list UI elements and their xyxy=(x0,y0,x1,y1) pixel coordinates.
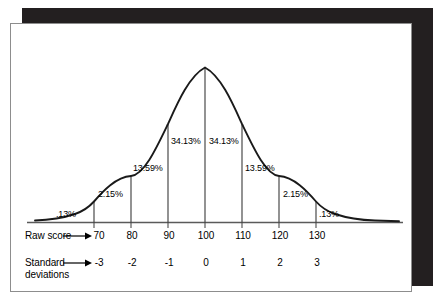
raw-tick-5: 120 xyxy=(272,231,288,241)
figure-card: .13% 2.15% 13.59% 34.13% 34.13% 13.59% 2… xyxy=(10,23,412,292)
sd-tick-5: 2 xyxy=(277,258,282,268)
axis-tick-marks xyxy=(94,223,316,229)
standard-deviations-arrow xyxy=(63,260,92,267)
sd-tick-1: -2 xyxy=(128,258,137,268)
raw-tick-0: 70 xyxy=(94,231,105,241)
area-label-right-outer: 2.15% xyxy=(283,190,308,199)
sd-tick-0: -3 xyxy=(95,258,104,268)
area-label-right-mid: 13.59% xyxy=(245,164,275,173)
raw-score-row-label: Raw score xyxy=(25,231,71,241)
sd-tick-3: 0 xyxy=(203,258,208,268)
figure-root: .13% 2.15% 13.59% 34.13% 34.13% 13.59% 2… xyxy=(0,0,433,302)
sd-tick-2: -1 xyxy=(165,258,174,268)
standard-deviations-row-label-line2: deviations xyxy=(25,270,69,280)
area-label-left-mid: 13.59% xyxy=(133,164,163,173)
raw-tick-2: 90 xyxy=(164,231,175,241)
raw-tick-4: 110 xyxy=(235,231,251,241)
area-label-far-left: .13% xyxy=(56,210,76,219)
sd-tick-6: 3 xyxy=(314,258,319,268)
sd-tick-4: 1 xyxy=(240,258,245,268)
area-label-right-inner: 34.13% xyxy=(209,137,239,146)
sd-division-lines xyxy=(94,68,316,223)
standard-deviations-row-label-line1: Standard xyxy=(25,258,65,268)
area-label-left-inner: 34.13% xyxy=(171,137,201,146)
raw-tick-6: 130 xyxy=(309,231,325,241)
raw-tick-1: 80 xyxy=(127,231,138,241)
area-label-far-right: .13% xyxy=(319,210,339,219)
normal-curve-plot xyxy=(11,24,413,293)
area-label-left-outer: 2.15% xyxy=(98,190,123,199)
raw-tick-3: 100 xyxy=(198,231,214,241)
